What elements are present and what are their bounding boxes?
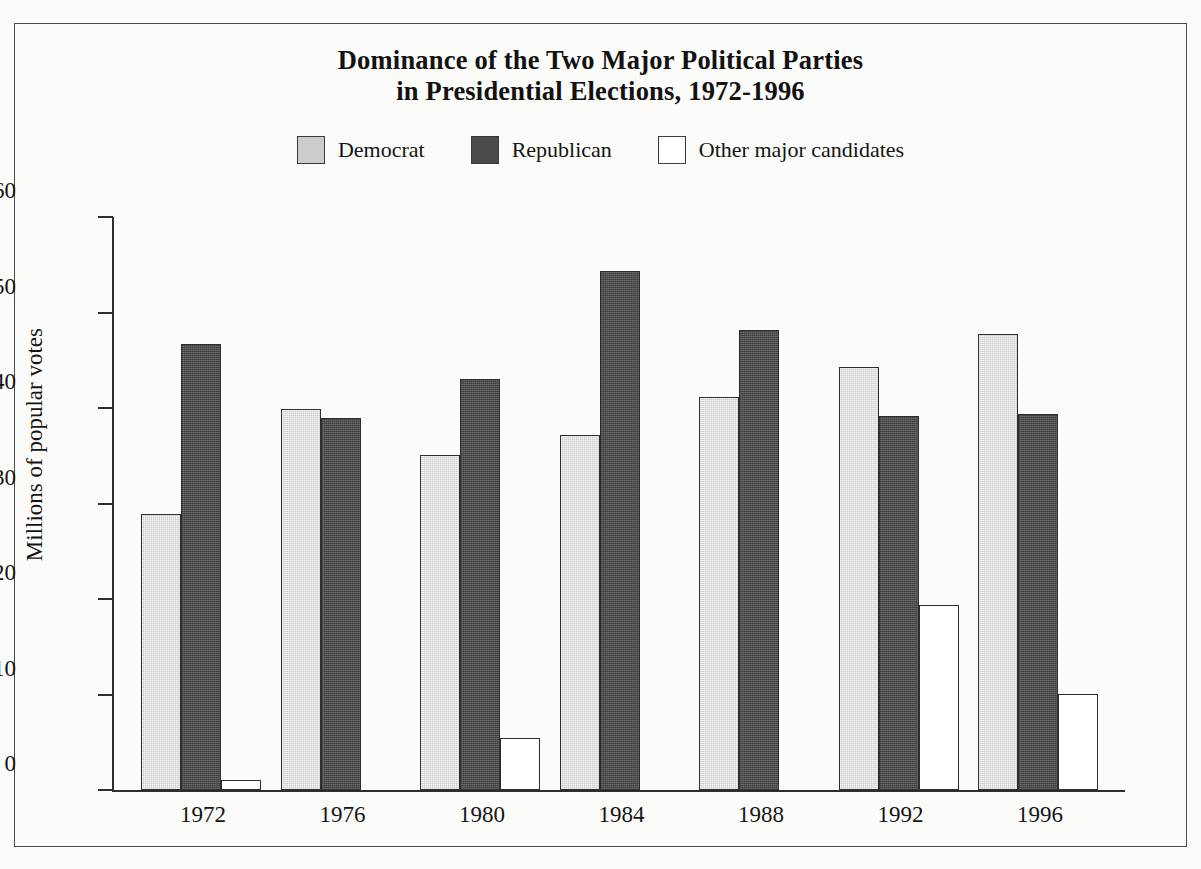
bar-group-1988	[699, 217, 823, 790]
x-tick-label-1992: 1992	[831, 802, 971, 828]
legend-swatch-other	[658, 136, 686, 164]
bar-1992-democrat[interactable]	[839, 367, 879, 790]
bar-1980-democrat[interactable]	[420, 455, 460, 790]
x-tick-label-1980: 1980	[412, 802, 552, 828]
bar-1984-republican[interactable]	[600, 271, 640, 790]
x-tick-label-1976: 1976	[273, 802, 413, 828]
x-axis-line	[112, 790, 1125, 792]
legend-label-other: Other major candidates	[699, 137, 904, 163]
bar-group-1992	[839, 217, 963, 790]
legend-item-republican: Republican	[471, 136, 612, 164]
x-tick-label-1996: 1996	[970, 802, 1110, 828]
bar-group-1980	[420, 217, 544, 790]
legend-item-democrat: Democrat	[297, 136, 425, 164]
bar-1976-democrat[interactable]	[281, 409, 321, 790]
y-tick-0	[98, 789, 113, 791]
legend-swatch-republican	[471, 136, 499, 164]
bar-1992-republican[interactable]	[879, 416, 919, 790]
bar-1972-democrat[interactable]	[141, 514, 181, 790]
bar-group-1972	[141, 217, 265, 790]
bar-1992-other[interactable]	[919, 605, 959, 790]
y-tick-label-20: 20	[0, 560, 16, 586]
x-tick-label-1988: 1988	[691, 802, 831, 828]
y-tick-label-40: 40	[0, 369, 16, 395]
x-tick-label-1984: 1984	[552, 802, 692, 828]
y-tick-label-50: 50	[0, 274, 16, 300]
bar-1988-republican[interactable]	[739, 330, 779, 790]
legend-label-democrat: Democrat	[338, 137, 425, 163]
x-tick-label-1972: 1972	[133, 802, 273, 828]
bar-1996-democrat[interactable]	[978, 334, 1018, 790]
bar-1972-republican[interactable]	[181, 344, 221, 790]
y-tick-30	[98, 503, 113, 505]
plot-area: 0102030405060 19721976198019841988199219…	[113, 217, 1153, 790]
y-tick-label-10: 10	[0, 656, 16, 682]
bar-1972-other[interactable]	[221, 780, 261, 791]
y-tick-label-0: 0	[0, 751, 16, 777]
y-tick-50	[98, 312, 113, 314]
bar-1980-republican[interactable]	[460, 379, 500, 790]
bar-1980-other[interactable]	[500, 738, 540, 790]
bar-1984-democrat[interactable]	[560, 435, 600, 790]
bar-1976-republican[interactable]	[321, 418, 361, 790]
chart-figure: Dominance of the Two Major Political Par…	[0, 0, 1201, 869]
bar-1988-democrat[interactable]	[699, 397, 739, 790]
bar-group-1984	[560, 217, 684, 790]
bar-1996-republican[interactable]	[1018, 414, 1058, 790]
bar-group-1996	[978, 217, 1102, 790]
y-tick-label-30: 30	[0, 465, 16, 491]
y-tick-20	[98, 598, 113, 600]
y-tick-10	[98, 694, 113, 696]
bar-1996-other[interactable]	[1058, 694, 1098, 790]
bar-group-1976	[281, 217, 405, 790]
legend-label-republican: Republican	[512, 137, 612, 163]
legend-item-other: Other major candidates	[658, 136, 904, 164]
y-axis-title: Millions of popular votes	[22, 328, 48, 561]
y-tick-60	[98, 216, 113, 218]
y-tick-40	[98, 407, 113, 409]
y-tick-label-60: 60	[0, 178, 16, 204]
legend-swatch-democrat	[297, 136, 325, 164]
chart-legend: Democrat Republican Other major candidat…	[0, 136, 1201, 164]
